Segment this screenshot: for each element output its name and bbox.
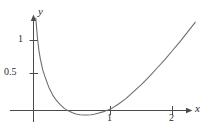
curve-path xyxy=(36,18,195,115)
plot-canvas xyxy=(0,0,205,128)
function-graph-figure: y x 1 0.5 1 2 xyxy=(0,0,205,128)
x-tick-label-2: 2 xyxy=(169,113,174,123)
y-axis-label: y xyxy=(38,6,43,17)
y-tick-label-1: 1 xyxy=(18,34,23,44)
x-axis-arrow-icon xyxy=(186,108,193,113)
x-axis-label: x xyxy=(195,103,200,114)
x-tick-label-1: 1 xyxy=(107,113,112,123)
y-tick-label-0point5: 0.5 xyxy=(4,67,17,77)
